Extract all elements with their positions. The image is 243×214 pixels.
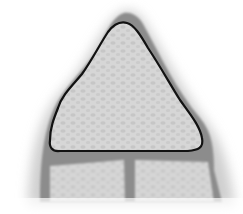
- cell-illustration: [0, 0, 243, 214]
- bottom-fade: [0, 198, 243, 214]
- cell-diagram: [0, 0, 243, 214]
- lower-right-cell: [135, 160, 214, 202]
- lower-left-cell: [50, 160, 125, 202]
